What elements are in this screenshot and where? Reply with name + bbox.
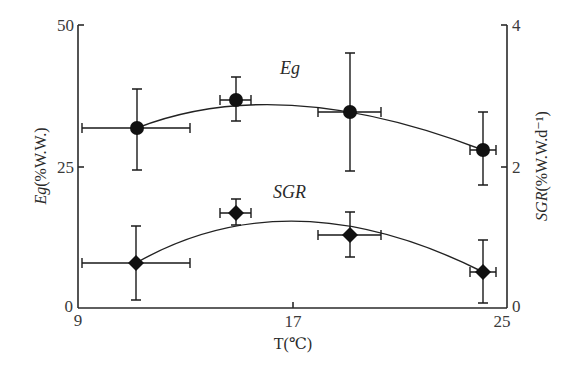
right-tick-label-4: 4 (512, 16, 521, 35)
sgr-point-3 (318, 212, 381, 257)
eg-series-label: Eg (279, 58, 300, 78)
right-axis-title-unit: (%W.W.d⁻¹) (533, 111, 551, 192)
left-axis-title-var: Eg (32, 187, 50, 206)
sgr-series-label: SGR (273, 182, 306, 202)
x-tick-label-17: 17 (285, 312, 303, 331)
sgr-fit-curve (136, 221, 483, 272)
sgr-point-4 (470, 240, 496, 303)
x-tick-label-25: 25 (494, 312, 511, 331)
x-axis-title: T(℃) (274, 335, 312, 353)
right-axis-title: SGR(%W.W.d⁻¹) (533, 111, 551, 221)
left-tick-label-0: 0 (65, 297, 74, 316)
right-tick-label-2: 2 (512, 158, 521, 177)
dual-axis-scatter-chart: 50 25 0 4 2 0 9 17 25 T(℃) Eg(%W.W.) SGR… (0, 0, 584, 375)
eg-point-4 (470, 112, 496, 185)
x-tick-label-9: 9 (74, 311, 83, 330)
left-axis-title: Eg(%W.W.) (32, 127, 50, 205)
eg-point-1 (82, 89, 190, 170)
left-tick-label-25: 25 (57, 158, 74, 177)
left-tick-label-50: 50 (57, 16, 74, 35)
right-axis-title-var: SGR (533, 191, 550, 221)
right-tick-label-0: 0 (512, 297, 521, 316)
sgr-point-1 (82, 226, 190, 300)
eg-point-3 (318, 53, 381, 171)
sgr-point-2 (220, 199, 251, 225)
eg-point-2 (220, 77, 251, 121)
eg-fit-curve (137, 105, 483, 150)
left-axis-title-unit: (%W.W.) (32, 127, 50, 186)
